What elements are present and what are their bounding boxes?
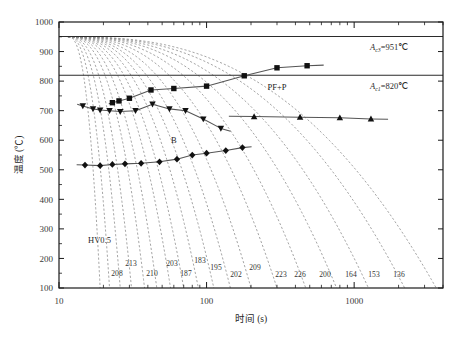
hardness-value: 195 (210, 263, 222, 272)
reference-label-Ac1: Ac1=820℃ (369, 81, 408, 92)
data-point-marker (171, 86, 176, 91)
y-tick-label: 300 (40, 224, 54, 234)
data-point-marker (116, 98, 121, 103)
y-tick-label: 1000 (35, 17, 54, 27)
y-tick-label: 100 (40, 283, 54, 293)
y-tick-label: 600 (40, 135, 54, 145)
hardness-value: 183 (194, 256, 206, 265)
data-point-marker (204, 83, 209, 88)
reference-label-Ac3: Ac3=951℃ (369, 42, 408, 53)
chart-canvas: 1002003004005006007008009001000101001000… (0, 0, 454, 339)
data-point-marker (242, 73, 247, 78)
y-tick-label: 200 (40, 254, 54, 264)
x-tick-label: 100 (200, 296, 214, 306)
hardness-value: 208 (111, 269, 123, 278)
x-tick-label: 10 (55, 296, 65, 306)
x-tick-label: 1000 (345, 296, 364, 306)
region-label: B (171, 135, 177, 145)
hardness-value: 209 (249, 263, 261, 272)
hardness-value: 210 (146, 269, 158, 278)
y-axis-title: 温度 (℃) (13, 136, 25, 175)
data-point-marker (127, 96, 132, 101)
y-tick-label: 700 (40, 106, 54, 116)
hardness-value: 202 (230, 270, 242, 279)
hardness-value: 203 (166, 259, 178, 268)
x-axis-title: 时间 (s) (235, 313, 267, 325)
hardness-value: 164 (345, 270, 357, 279)
hardness-value: 223 (275, 270, 287, 279)
hardness-value: 187 (180, 269, 192, 278)
y-tick-label: 800 (40, 76, 54, 86)
data-point-marker (274, 65, 279, 70)
data-point-marker (110, 100, 115, 105)
hardness-value: 213 (125, 259, 137, 268)
cct-diagram: 1002003004005006007008009001000101001000… (0, 0, 454, 339)
hardness-value: 153 (368, 270, 380, 279)
region-label: PF+P (267, 82, 286, 92)
hardness-value: 226 (294, 270, 306, 279)
hardness-value: 200 (319, 270, 331, 279)
y-tick-label: 500 (40, 165, 54, 175)
data-point-marker (304, 63, 309, 68)
data-point-marker (148, 87, 153, 92)
hardness-caption: HV0.5 (88, 235, 111, 245)
hardness-value: 136 (393, 270, 405, 279)
y-tick-label: 400 (40, 195, 54, 205)
y-tick-label: 900 (40, 47, 54, 57)
